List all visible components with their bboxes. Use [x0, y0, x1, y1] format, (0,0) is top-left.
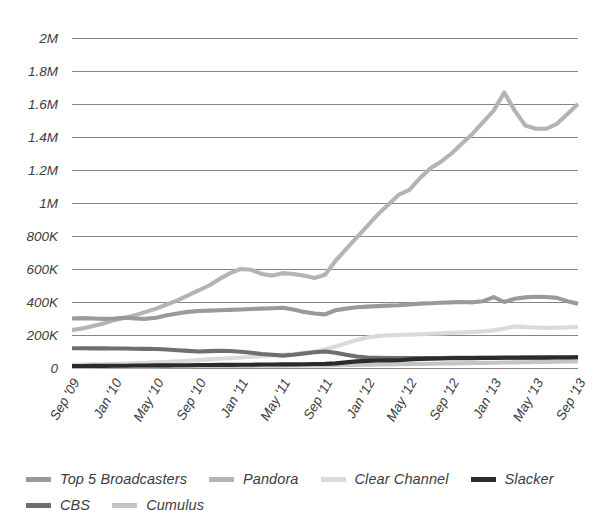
legend-item-clear-channel[interactable]: Clear Channel [321, 471, 449, 487]
legend-row-2: CBSCumulus [26, 492, 574, 518]
legend-label: Clear Channel [355, 471, 449, 487]
x-tick-label: Sep '11 [300, 376, 335, 422]
legend-item-cumulus[interactable]: Cumulus [112, 497, 204, 513]
y-tick-label: 1.4M [28, 130, 59, 145]
y-tick-label: 800K [26, 229, 59, 244]
x-tick-label: May '10 [130, 376, 167, 424]
x-tick-label: Jan '12 [343, 376, 378, 422]
legend-swatch-icon [321, 477, 346, 482]
y-tick-label: 1.6M [28, 97, 59, 112]
legend-item-pandora[interactable]: Pandora [209, 471, 299, 487]
x-tick-label: May '11 [257, 376, 293, 423]
y-tick-label: 1M [39, 196, 59, 211]
line-chart: 2M1.8M1.6M1.4M1.2M1M800K600K400K200K0 Se… [0, 0, 594, 524]
y-tick-label: 600K [26, 262, 59, 277]
x-tick-label: Sep '09 [47, 376, 83, 423]
y-tick-label: 400K [26, 295, 59, 310]
x-tick-label: Jan '13 [469, 376, 504, 422]
legend-row-1: Top 5 BroadcastersPandoraClear ChannelSl… [26, 466, 574, 492]
x-tick-label: Jan '11 [217, 376, 252, 421]
x-tick-label: May '13 [510, 376, 547, 424]
x-tick-label: Jan '10 [90, 376, 125, 422]
series-line-pandora [72, 92, 578, 330]
chart-legend: Top 5 BroadcastersPandoraClear ChannelSl… [26, 466, 574, 518]
y-tick-label: 1.8M [28, 64, 59, 79]
legend-label: Slacker [505, 471, 554, 487]
y-tick-label: 0 [50, 361, 58, 376]
legend-swatch-icon [209, 477, 234, 482]
legend-swatch-icon [112, 503, 137, 508]
x-tick-label: May '12 [383, 376, 420, 424]
x-axis-tick-labels: Sep '09Jan '10May '10Sep '10Jan '11May '… [47, 376, 589, 424]
legend-item-top-5-broadcasters[interactable]: Top 5 Broadcasters [26, 471, 187, 487]
series-line-top-5-broadcasters [72, 297, 578, 319]
y-tick-label: 1.2M [28, 163, 59, 178]
legend-item-cbs[interactable]: CBS [26, 497, 90, 513]
legend-swatch-icon [26, 477, 51, 482]
chart-svg: 2M1.8M1.6M1.4M1.2M1M800K600K400K200K0 Se… [0, 0, 594, 455]
legend-swatch-icon [471, 477, 496, 482]
legend-label: Top 5 Broadcasters [60, 471, 187, 487]
y-axis-tick-labels: 2M1.8M1.6M1.4M1.2M1M800K600K400K200K0 [25, 31, 59, 376]
plot-area: 2M1.8M1.6M1.4M1.2M1M800K600K400K200K0 Se… [0, 0, 594, 455]
x-tick-label: Sep '10 [173, 376, 209, 423]
legend-swatch-icon [26, 503, 51, 508]
legend-label: CBS [60, 497, 90, 513]
series-lines [72, 92, 578, 366]
x-tick-label: Sep '12 [426, 376, 462, 423]
legend-label: Pandora [243, 471, 299, 487]
x-tick-label: Sep '13 [553, 376, 589, 423]
y-tick-label: 2M [38, 31, 59, 46]
y-tick-label: 200K [25, 328, 59, 343]
legend-label: Cumulus [146, 497, 204, 513]
legend-item-slacker[interactable]: Slacker [471, 471, 554, 487]
